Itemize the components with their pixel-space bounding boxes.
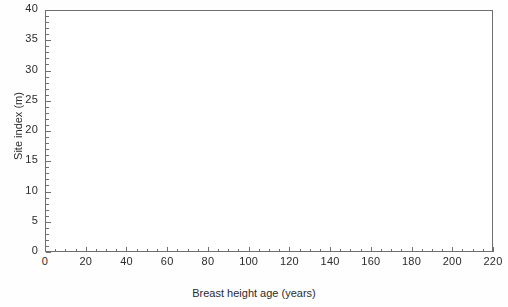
y-tick-minor	[46, 173, 49, 174]
y-tick-minor	[46, 58, 49, 59]
x-tick-minor	[320, 249, 321, 252]
y-tick-minor	[46, 113, 49, 114]
x-tick-minor	[432, 249, 433, 252]
x-tick-major	[289, 247, 290, 252]
y-tick-minor	[46, 125, 49, 126]
y-tick-label: 40	[8, 2, 38, 14]
x-tick-minor	[96, 249, 97, 252]
x-tick-major	[126, 247, 127, 252]
x-tick-major	[371, 247, 372, 252]
x-tick-minor	[340, 249, 341, 252]
x-tick-minor	[157, 249, 158, 252]
x-tick-minor	[361, 249, 362, 252]
y-tick-minor	[46, 234, 49, 235]
y-tick-minor	[46, 46, 49, 47]
x-tick-minor	[116, 249, 117, 252]
plot-frame	[45, 10, 493, 252]
x-tick-major	[330, 247, 331, 252]
x-tick-minor	[65, 249, 66, 252]
x-tick-minor	[422, 249, 423, 252]
x-tick-minor	[391, 249, 392, 252]
x-tick-minor	[188, 249, 189, 252]
y-tick-minor	[46, 246, 49, 247]
x-tick-major	[493, 247, 494, 252]
y-tick-minor	[46, 216, 49, 217]
x-tick-major	[86, 247, 87, 252]
y-tick-minor	[46, 77, 49, 78]
x-tick-label: 220	[473, 255, 508, 267]
x-tick-label: 80	[188, 255, 228, 267]
x-tick-minor	[442, 249, 443, 252]
x-tick-minor	[55, 249, 56, 252]
x-tick-minor	[228, 249, 229, 252]
x-tick-minor	[218, 249, 219, 252]
y-tick-minor	[46, 179, 49, 180]
x-tick-minor	[177, 249, 178, 252]
x-tick-minor	[238, 249, 239, 252]
y-tick-label: 0	[8, 244, 38, 256]
y-tick-label: 35	[8, 32, 38, 44]
x-tick-minor	[269, 249, 270, 252]
x-tick-major	[452, 247, 453, 252]
x-tick-major	[208, 247, 209, 252]
x-tick-minor	[106, 249, 107, 252]
y-tick-minor	[46, 52, 49, 53]
y-tick-minor	[46, 107, 49, 108]
y-tick-minor	[46, 119, 49, 120]
x-tick-label: 40	[106, 255, 146, 267]
x-tick-label: 60	[147, 255, 187, 267]
x-tick-label: 20	[66, 255, 106, 267]
y-tick-minor	[46, 198, 49, 199]
y-tick-major	[46, 131, 51, 132]
x-tick-minor	[279, 249, 280, 252]
y-tick-major	[46, 71, 51, 72]
y-tick-minor	[46, 137, 49, 138]
y-tick-minor	[46, 155, 49, 156]
x-axis-title: Breast height age (years)	[0, 287, 508, 299]
y-tick-minor	[46, 64, 49, 65]
y-tick-minor	[46, 95, 49, 96]
x-tick-minor	[147, 249, 148, 252]
x-tick-minor	[300, 249, 301, 252]
y-tick-minor	[46, 185, 49, 186]
y-tick-minor	[46, 240, 49, 241]
x-tick-minor	[310, 249, 311, 252]
x-tick-label: 140	[310, 255, 350, 267]
x-tick-minor	[473, 249, 474, 252]
x-tick-major	[412, 247, 413, 252]
y-axis-title: Site index (m)	[12, 56, 24, 196]
x-tick-major	[249, 247, 250, 252]
y-tick-minor	[46, 16, 49, 17]
x-tick-minor	[76, 249, 77, 252]
y-tick-major	[46, 192, 51, 193]
y-tick-major	[46, 10, 51, 11]
y-tick-minor	[46, 83, 49, 84]
y-tick-minor	[46, 204, 49, 205]
x-tick-minor	[483, 249, 484, 252]
y-tick-minor	[46, 28, 49, 29]
x-tick-minor	[137, 249, 138, 252]
x-tick-major	[167, 247, 168, 252]
y-tick-minor	[46, 89, 49, 90]
x-tick-label: 0	[25, 255, 65, 267]
y-tick-major	[46, 161, 51, 162]
x-tick-label: 100	[229, 255, 269, 267]
y-tick-minor	[46, 167, 49, 168]
x-tick-label: 160	[351, 255, 391, 267]
x-tick-label: 180	[392, 255, 432, 267]
y-tick-major	[46, 40, 51, 41]
y-tick-label: 5	[8, 214, 38, 226]
x-tick-minor	[350, 249, 351, 252]
chart-figure: 020406080100120140160180200220 051015202…	[0, 0, 508, 307]
y-tick-minor	[46, 210, 49, 211]
y-tick-minor	[46, 22, 49, 23]
y-tick-minor	[46, 34, 49, 35]
x-tick-minor	[401, 249, 402, 252]
y-tick-minor	[46, 143, 49, 144]
x-tick-minor	[198, 249, 199, 252]
y-tick-minor	[46, 149, 49, 150]
x-tick-minor	[462, 249, 463, 252]
x-tick-label: 200	[432, 255, 472, 267]
x-tick-label: 120	[269, 255, 309, 267]
y-tick-major	[46, 252, 51, 253]
